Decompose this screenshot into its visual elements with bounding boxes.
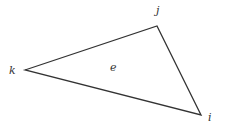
element-label-e: e	[110, 61, 117, 74]
triangle-diagram: k j i e	[0, 0, 225, 127]
vertex-label-k: k	[9, 64, 16, 77]
vertex-label-j: j	[153, 4, 160, 17]
vertex-label-i: i	[208, 111, 212, 124]
